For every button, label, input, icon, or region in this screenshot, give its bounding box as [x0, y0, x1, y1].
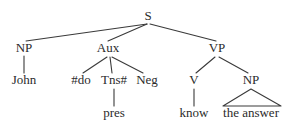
- node-vp: VP: [209, 40, 226, 55]
- edge-s-to-vp: [150, 24, 216, 41]
- edge-aux-to-tns: [110, 57, 112, 73]
- leaf-know: know: [180, 105, 210, 120]
- node-aux: Aux: [97, 40, 120, 55]
- syntax-tree-figure: S NP Aux VP #do Tns# Neg V NP John pres …: [0, 0, 304, 126]
- syntax-tree-canvas: S NP Aux VP #do Tns# Neg V NP John pres …: [0, 0, 304, 126]
- node-negation: Neg: [136, 72, 158, 87]
- edge-aux-to-neg: [112, 57, 143, 73]
- leaf-the-answer: the answer: [223, 105, 280, 120]
- edge-vp-to-v: [196, 57, 215, 73]
- leaf-john: John: [12, 72, 37, 87]
- np-object-triangle: [223, 89, 281, 106]
- edge-aux-to-do: [83, 57, 107, 73]
- node-tense: Tns#: [101, 72, 128, 87]
- edge-vp-to-np-object: [219, 57, 248, 73]
- leaf-pres: pres: [103, 105, 125, 120]
- node-np-subject: NP: [16, 40, 33, 55]
- node-do-support: #do: [71, 72, 91, 87]
- node-np-object: NP: [243, 72, 260, 87]
- node-s: S: [144, 8, 151, 23]
- node-verb: V: [189, 72, 199, 87]
